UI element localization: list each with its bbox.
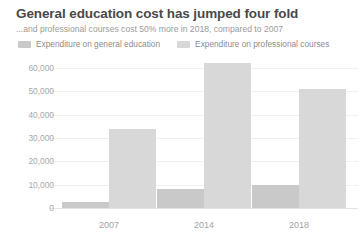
bar-2018-professional[interactable] bbox=[299, 89, 346, 208]
legend-item[interactable]: Expenditure on general education bbox=[18, 39, 160, 49]
bar-2018-general[interactable] bbox=[252, 185, 299, 208]
chart-screenshot: General education cost has jumped four f… bbox=[0, 0, 362, 237]
bars-layer: 200720142018 bbox=[0, 56, 362, 237]
legend-swatch-icon bbox=[18, 41, 31, 48]
bar-2014-professional[interactable] bbox=[204, 63, 251, 208]
bar-2007-general[interactable] bbox=[62, 202, 109, 208]
legend-swatch-icon bbox=[177, 41, 190, 48]
bar-2014-general[interactable] bbox=[157, 189, 204, 208]
bar-2007-professional[interactable] bbox=[109, 129, 156, 208]
legend-item[interactable]: Expenditure on professional courses bbox=[177, 39, 329, 49]
legend-item-label: Expenditure on professional courses bbox=[195, 39, 329, 49]
chart-subtitle: ...and professional courses cost 50% mor… bbox=[16, 24, 283, 34]
x-axis-tick-label: 2018 bbox=[289, 220, 309, 230]
plot-area: 010,00020,00030,00040,00050,00060,000 20… bbox=[0, 56, 362, 237]
legend-item-label: Expenditure on general education bbox=[36, 39, 160, 49]
x-axis-tick-label: 2007 bbox=[99, 220, 119, 230]
chart-title: General education cost has jumped four f… bbox=[16, 6, 298, 21]
chart-legend: Expenditure on general educationExpendit… bbox=[18, 39, 329, 49]
x-axis-tick-label: 2014 bbox=[194, 220, 214, 230]
